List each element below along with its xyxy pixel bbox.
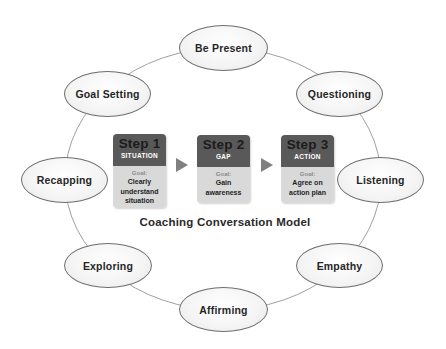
arrow-right-icon <box>176 158 188 172</box>
node-label: Listening <box>356 174 404 186</box>
step-title: Step 1 <box>113 136 166 151</box>
goal-line: situation <box>113 196 166 206</box>
step-subtitle: GAP <box>197 152 250 161</box>
node-questioning: Questioning <box>296 71 383 117</box>
step-3-card: Step 3 ACTION Goal: Agree on action plan <box>281 135 334 203</box>
node-empathy: Empathy <box>296 243 383 288</box>
node-label: Recapping <box>37 174 92 186</box>
node-affirming: Affirming <box>179 287 268 332</box>
step-goal: Goal: Clearly understand situation <box>113 166 166 208</box>
goal-label: Goal: <box>281 170 334 178</box>
arrow-right-icon <box>261 158 273 172</box>
step-2-card: Step 2 GAP Goal: Gain awareness <box>197 135 250 203</box>
step-header: Step 3 ACTION <box>281 135 334 167</box>
goal-line: Gain <box>197 178 250 188</box>
node-recapping: Recapping <box>21 157 108 203</box>
coaching-conversation-diagram: Be Present Questioning Listening Empathy… <box>0 0 446 349</box>
node-label: Affirming <box>199 304 247 316</box>
goal-line: awareness <box>197 188 250 198</box>
goal-line: action plan <box>281 188 334 198</box>
node-label: Questioning <box>308 88 371 100</box>
node-exploring: Exploring <box>64 243 152 288</box>
node-label: Be Present <box>195 42 252 54</box>
node-goal-setting: Goal Setting <box>64 71 151 117</box>
step-goal: Goal: Agree on action plan <box>281 167 334 203</box>
node-be-present: Be Present <box>179 25 268 71</box>
diagram-title: Coaching Conversation Model <box>120 216 330 228</box>
step-header: Step 2 GAP <box>197 135 250 167</box>
goal-label: Goal: <box>197 170 250 178</box>
node-listening: Listening <box>337 157 424 203</box>
node-label: Goal Setting <box>75 88 139 100</box>
step-goal: Goal: Gain awareness <box>197 167 250 203</box>
step-subtitle: ACTION <box>281 152 334 161</box>
goal-label: Goal: <box>113 169 166 177</box>
step-1-card: Step 1 SITUATION Goal: Clearly understan… <box>113 134 166 208</box>
goal-line: Clearly <box>113 177 166 187</box>
step-header: Step 1 SITUATION <box>113 134 166 166</box>
node-label: Exploring <box>83 260 133 272</box>
node-label: Empathy <box>317 260 363 272</box>
goal-line: Agree on <box>281 178 334 188</box>
step-title: Step 2 <box>197 137 250 152</box>
step-subtitle: SITUATION <box>113 151 166 160</box>
step-title: Step 3 <box>281 137 334 152</box>
goal-line: understand <box>113 187 166 197</box>
